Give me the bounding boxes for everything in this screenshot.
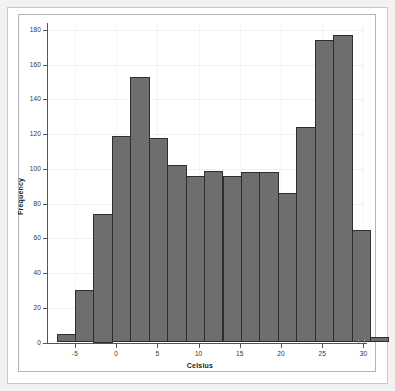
x-axis-tick-label: -5 bbox=[63, 350, 87, 357]
histogram-bar bbox=[296, 127, 315, 342]
x-axis-line bbox=[47, 343, 367, 344]
histogram-bar bbox=[223, 176, 242, 343]
x-axis-tick-label: 0 bbox=[104, 350, 128, 357]
y-axis-tick bbox=[43, 169, 47, 170]
y-axis-tick-label: 160 bbox=[20, 61, 41, 68]
y-axis-title: Frequency bbox=[17, 178, 24, 215]
x-axis-tick-label: 30 bbox=[351, 350, 375, 357]
y-axis-line bbox=[47, 23, 48, 344]
y-axis-tick bbox=[43, 343, 47, 344]
x-axis-tick-label: 20 bbox=[269, 350, 293, 357]
y-axis-tick bbox=[43, 273, 47, 274]
y-axis-tick-label: 140 bbox=[20, 95, 41, 102]
histogram-bar bbox=[204, 171, 223, 343]
histogram-screenshot: 020406080100120140160180-5051015202530 F… bbox=[0, 0, 395, 391]
y-axis-tick-label: 40 bbox=[20, 269, 41, 276]
histogram-bar bbox=[352, 230, 371, 343]
x-axis-tick bbox=[157, 344, 158, 348]
x-axis-tick-label: 15 bbox=[228, 350, 252, 357]
x-axis-minor-tick bbox=[358, 339, 359, 343]
x-axis-title: Celsius bbox=[150, 362, 250, 369]
x-axis-tick-label: 5 bbox=[145, 350, 169, 357]
y-axis-tick bbox=[43, 134, 47, 135]
histogram-bar bbox=[130, 77, 149, 343]
x-axis-tick-label: 10 bbox=[187, 350, 211, 357]
histogram-bar bbox=[315, 40, 334, 342]
histogram-bar bbox=[241, 172, 260, 342]
y-axis-tick-label: 120 bbox=[20, 130, 41, 137]
plot-area: 020406080100120140160180-5051015202530 bbox=[0, 0, 395, 391]
histogram-bar bbox=[186, 176, 205, 343]
y-axis-tick bbox=[43, 308, 47, 309]
x-axis-tick bbox=[199, 344, 200, 348]
histogram-bar bbox=[75, 290, 94, 342]
histogram-bar bbox=[278, 193, 297, 342]
y-axis-tick-label: 180 bbox=[20, 26, 41, 33]
y-gridline bbox=[47, 30, 365, 31]
histogram-bar bbox=[370, 337, 389, 342]
histogram-bar bbox=[93, 214, 112, 343]
histogram-bar bbox=[259, 172, 278, 342]
x-axis-minor-tick bbox=[364, 339, 365, 343]
x-axis-tick bbox=[75, 344, 76, 348]
x-axis-tick bbox=[116, 344, 117, 348]
y-axis-tick-label: 60 bbox=[20, 234, 41, 241]
histogram-bar bbox=[149, 138, 168, 343]
histogram-bar bbox=[57, 334, 76, 343]
x-axis-tick-label: 25 bbox=[310, 350, 334, 357]
histogram-bar bbox=[112, 136, 131, 343]
y-axis-tick-label: 100 bbox=[20, 165, 41, 172]
y-axis-tick bbox=[43, 238, 47, 239]
y-axis-tick bbox=[43, 204, 47, 205]
y-axis-tick bbox=[43, 99, 47, 100]
y-axis-tick bbox=[43, 30, 47, 31]
y-axis-tick bbox=[43, 65, 47, 66]
histogram-bar bbox=[167, 165, 186, 342]
histogram-bar bbox=[333, 35, 352, 342]
y-axis-tick-label: 0 bbox=[20, 339, 41, 346]
y-axis-tick-label: 20 bbox=[20, 304, 41, 311]
x-axis-tick bbox=[363, 344, 364, 348]
x-axis-tick bbox=[322, 344, 323, 348]
x-axis-tick bbox=[281, 344, 282, 348]
x-axis-tick bbox=[240, 344, 241, 348]
